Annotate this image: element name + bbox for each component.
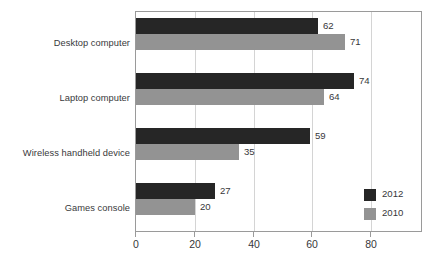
x-axis-label-40: 40	[248, 238, 260, 250]
bar-2010-laptop-computer	[136, 89, 324, 105]
value-label-2012-laptop-computer: 74	[359, 76, 370, 86]
legend: 2012 2010	[364, 186, 420, 224]
x-axis-label-80: 80	[365, 238, 377, 250]
bar-2010-games-console	[136, 199, 195, 215]
x-axis-label-60: 60	[306, 238, 318, 250]
legend-swatch-2012-icon	[364, 189, 376, 201]
legend-swatch-2010-icon	[364, 208, 376, 220]
plot-area: 62 71 74 64 59 35 27 20 2012 2010	[135, 11, 422, 232]
bar-2012-wireless-handheld-device	[136, 128, 310, 144]
value-label-2012-desktop-computer: 62	[323, 21, 334, 31]
category-axis-labels: Desktop computer Laptop computer Wireles…	[0, 11, 130, 232]
x-axis-labels: 0 20 40 60 80	[0, 238, 431, 254]
bar-2012-games-console	[136, 183, 215, 199]
value-label-2010-desktop-computer: 71	[350, 37, 361, 47]
bar-2012-desktop-computer	[136, 18, 318, 34]
legend-item-2010[interactable]: 2010	[364, 205, 420, 224]
bar-2010-wireless-handheld-device	[136, 144, 239, 160]
legend-item-2012[interactable]: 2012	[364, 186, 420, 205]
bar-chart: Desktop computer Laptop computer Wireles…	[0, 0, 431, 257]
category-label-3: Games console	[0, 203, 130, 213]
x-tick-40	[253, 232, 254, 237]
category-label-1: Laptop computer	[0, 93, 130, 103]
value-label-2012-games-console: 27	[220, 186, 231, 196]
x-tick-0	[135, 232, 136, 237]
value-label-2010-laptop-computer: 64	[329, 92, 340, 102]
value-label-2010-wireless-handheld-device: 35	[244, 147, 255, 157]
value-label-2012-wireless-handheld-device: 59	[315, 131, 326, 141]
x-tick-20	[194, 232, 195, 237]
value-label-2010-games-console: 20	[200, 202, 211, 212]
legend-label-2010: 2010	[382, 207, 403, 219]
x-tick-80	[370, 232, 371, 237]
bar-2012-laptop-computer	[136, 73, 354, 89]
x-axis-label-0: 0	[133, 238, 139, 250]
category-label-2: Wireless handheld device	[0, 148, 130, 158]
x-tick-60	[311, 232, 312, 237]
category-label-0: Desktop computer	[0, 38, 130, 48]
x-axis-label-20: 20	[189, 238, 201, 250]
legend-label-2012: 2012	[382, 188, 403, 200]
bar-2010-desktop-computer	[136, 34, 345, 50]
